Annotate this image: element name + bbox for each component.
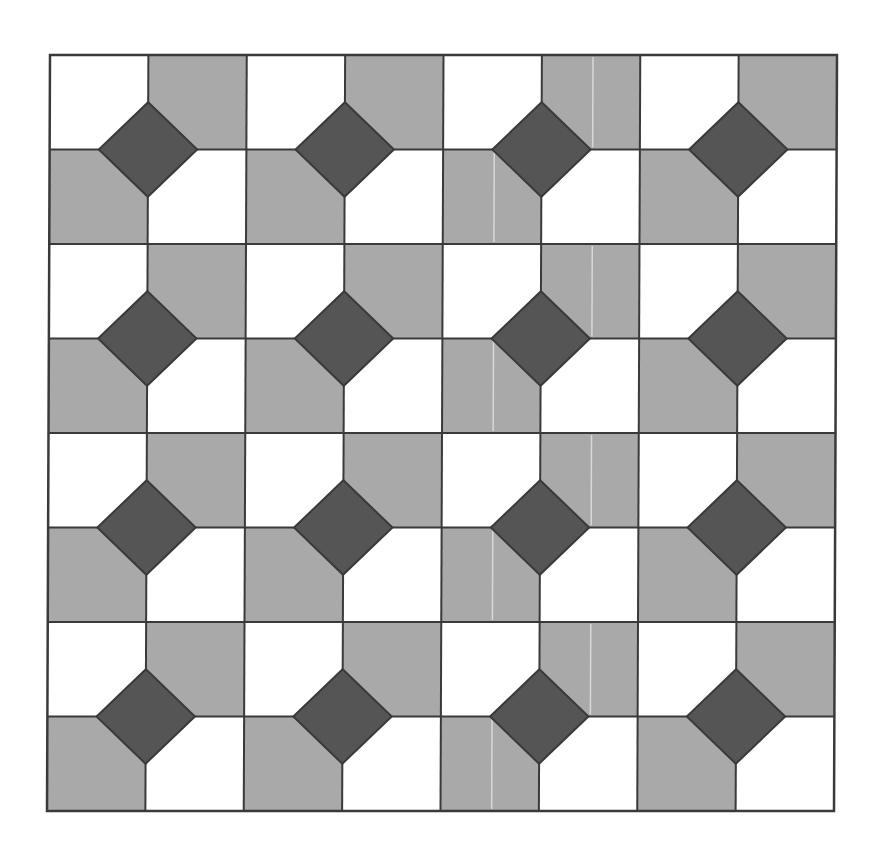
tiling-figure (0, 0, 875, 862)
